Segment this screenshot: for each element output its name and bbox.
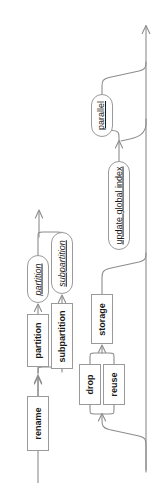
node-partition-keyword-label: partition (34, 323, 43, 359)
drop-reuse-bottom-join (90, 405, 114, 414)
railroad-diagram: rename partition subpartition partition … (0, 0, 165, 483)
node-subpartition-ref[interactable]: subpartition (51, 232, 73, 294)
node-partition-ref[interactable]: partition (27, 255, 49, 303)
node-drop-label: drop (86, 375, 95, 395)
ugi-bypass (121, 119, 146, 141)
node-update-global-index[interactable]: update global index (108, 161, 130, 250)
storage-out (102, 253, 146, 294)
node-partition-keyword[interactable]: partition (27, 314, 49, 367)
node-storage-label: storage (98, 303, 107, 336)
drop-reuse-feed (102, 414, 146, 470)
node-subpartition-ref-label: subpartition (58, 240, 67, 287)
node-rename-label: rename (34, 407, 43, 439)
node-subpartition-keyword[interactable]: subpartition (51, 303, 73, 369)
node-subpartition-keyword-label: subpartition (58, 310, 67, 362)
drop-reuse-top-join (90, 353, 114, 364)
node-rename[interactable]: rename (27, 396, 49, 451)
parallel-out (102, 62, 146, 94)
node-storage[interactable]: storage (91, 294, 113, 344)
node-reuse-label: reuse (110, 372, 119, 396)
node-drop[interactable]: drop (79, 364, 101, 405)
node-reuse[interactable]: reuse (103, 364, 125, 405)
node-update-global-index-label: update global index (115, 166, 124, 244)
node-parallel-label: parallel (98, 101, 107, 130)
node-partition-ref-label: partition (34, 263, 43, 295)
node-parallel[interactable]: parallel (91, 94, 113, 137)
rail-lines (0, 0, 165, 483)
